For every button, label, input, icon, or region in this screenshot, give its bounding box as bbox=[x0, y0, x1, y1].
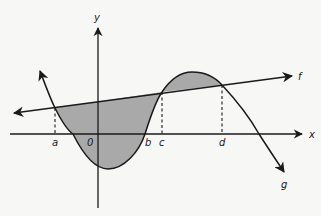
origin-label: 0 bbox=[87, 137, 93, 148]
line-f-label: f bbox=[298, 71, 303, 82]
y-axis-label: y bbox=[93, 12, 101, 23]
point-a-label: a bbox=[52, 137, 58, 148]
curve-g-label: g bbox=[281, 179, 287, 190]
point-c-label: c bbox=[159, 137, 165, 148]
point-d-label: d bbox=[219, 137, 226, 148]
point-b-label: b bbox=[145, 137, 151, 148]
x-axis-label: x bbox=[308, 129, 315, 140]
area-between-curves-diagram: y x f g a 0 b c d bbox=[0, 0, 321, 216]
